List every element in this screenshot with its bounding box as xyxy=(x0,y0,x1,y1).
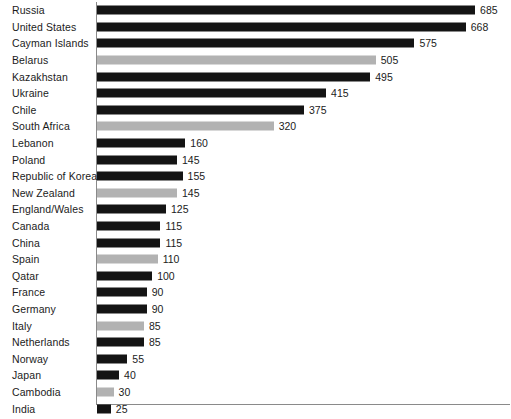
bar-and-value: 85 xyxy=(97,338,161,347)
bar xyxy=(97,255,158,264)
category-label: Ukraine xyxy=(12,88,49,99)
value-label: 110 xyxy=(163,254,180,265)
category-label: Kazakhstan xyxy=(12,71,68,82)
bar-and-value: 90 xyxy=(97,288,163,297)
bar-row: United States668 xyxy=(0,19,511,36)
bar-row: France90 xyxy=(0,284,511,301)
bar-row: Netherlands85 xyxy=(0,334,511,351)
bar-and-value: 685 xyxy=(97,6,498,15)
bar-and-value: 415 xyxy=(97,89,349,98)
value-label: 145 xyxy=(182,187,200,198)
value-label: 495 xyxy=(375,71,393,82)
bar xyxy=(97,304,147,313)
bar xyxy=(97,39,414,48)
category-label: China xyxy=(12,237,40,248)
value-label: 55 xyxy=(132,353,144,364)
bar-row: Ukraine415 xyxy=(0,85,511,102)
category-label: Republic of Korea xyxy=(12,171,97,182)
value-label: 85 xyxy=(149,320,161,331)
bar-and-value: 668 xyxy=(97,22,488,31)
bar xyxy=(97,321,144,330)
bar-and-value: 160 xyxy=(97,139,208,148)
value-label: 160 xyxy=(190,138,208,149)
category-label: Netherlands xyxy=(12,337,70,348)
bar-and-value: 115 xyxy=(97,238,182,247)
value-label: 85 xyxy=(149,337,161,348)
category-label: India xyxy=(12,403,35,414)
bar-and-value: 40 xyxy=(97,371,136,380)
bar-row: Japan40 xyxy=(0,367,511,384)
category-label: Poland xyxy=(12,154,45,165)
bar-row: England/Wales125 xyxy=(0,201,511,218)
bar-and-value: 495 xyxy=(97,72,393,81)
category-label: Japan xyxy=(12,370,41,381)
category-label: South Africa xyxy=(12,121,70,132)
bar xyxy=(97,139,185,148)
value-label: 90 xyxy=(152,303,164,314)
value-label: 415 xyxy=(331,88,349,99)
value-label: 145 xyxy=(182,154,200,165)
value-label: 155 xyxy=(188,171,206,182)
bar-and-value: 25 xyxy=(97,404,127,413)
bar-row: Chile375 xyxy=(0,102,511,119)
value-label: 668 xyxy=(471,21,489,32)
bar xyxy=(97,56,376,65)
bar xyxy=(97,188,177,197)
bar-row: Spain110 xyxy=(0,251,511,268)
bar xyxy=(97,205,166,214)
bar xyxy=(97,172,183,181)
bar-chart: Russia685United States668Cayman Islands5… xyxy=(0,0,511,419)
bar-and-value: 125 xyxy=(97,205,189,214)
value-label: 685 xyxy=(480,5,498,16)
bar-row: South Africa320 xyxy=(0,118,511,135)
value-label: 90 xyxy=(152,287,164,298)
bar-and-value: 575 xyxy=(97,39,437,48)
bar-row: New Zealand145 xyxy=(0,185,511,202)
value-label: 125 xyxy=(171,204,189,215)
bar xyxy=(97,105,304,114)
bar-row: China115 xyxy=(0,234,511,251)
category-label: Lebanon xyxy=(12,138,54,149)
bar xyxy=(97,222,160,231)
bar xyxy=(97,271,152,280)
bar-row: Cayman Islands575 xyxy=(0,35,511,52)
value-label: 115 xyxy=(165,221,182,232)
value-label: 30 xyxy=(119,386,131,397)
bar-and-value: 505 xyxy=(97,56,398,65)
category-label: Chile xyxy=(12,104,36,115)
bar-row: Belarus505 xyxy=(0,52,511,69)
category-label: Germany xyxy=(12,303,56,314)
category-label: Cambodia xyxy=(12,386,61,397)
bar-and-value: 100 xyxy=(97,271,175,280)
bar-and-value: 85 xyxy=(97,321,161,330)
category-label: Canada xyxy=(12,221,49,232)
bar-row: Cambodia30 xyxy=(0,384,511,401)
bar xyxy=(97,89,326,98)
bar xyxy=(97,22,466,31)
category-label: Italy xyxy=(12,320,32,331)
bar-rows-container: Russia685United States668Cayman Islands5… xyxy=(0,2,511,417)
bar-row: Germany90 xyxy=(0,301,511,318)
bar-row: Republic of Korea155 xyxy=(0,168,511,185)
bar-row: Poland145 xyxy=(0,151,511,168)
bar-row: Italy85 xyxy=(0,317,511,334)
bar-row: Norway55 xyxy=(0,350,511,367)
category-label: United States xyxy=(12,21,76,32)
category-label: Belarus xyxy=(12,55,48,66)
bar-and-value: 90 xyxy=(97,304,163,313)
category-label: Cayman Islands xyxy=(12,38,89,49)
value-label: 100 xyxy=(157,270,175,281)
value-label: 115 xyxy=(165,237,182,248)
value-label: 375 xyxy=(309,104,327,115)
value-label: 575 xyxy=(419,38,437,49)
bar-row: Kazakhstan495 xyxy=(0,68,511,85)
bar-and-value: 145 xyxy=(97,155,200,164)
bar xyxy=(97,122,274,131)
bar xyxy=(97,155,177,164)
category-label: England/Wales xyxy=(12,204,84,215)
value-label: 25 xyxy=(116,403,128,414)
value-label: 320 xyxy=(279,121,297,132)
bar-row: Qatar100 xyxy=(0,268,511,285)
bar xyxy=(97,371,119,380)
bar-row: Canada115 xyxy=(0,218,511,235)
